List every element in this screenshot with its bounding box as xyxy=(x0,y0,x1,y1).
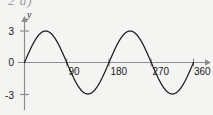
x-tick-label-180: 180 xyxy=(111,66,128,77)
graph-figure: 2 a) y 3 0 -3 90 180 xyxy=(0,0,213,115)
sine-graph-plot: y 3 0 -3 90 180 270 360 xyxy=(0,0,213,115)
y-tick-label-neg3: -3 xyxy=(5,90,14,101)
x-axis xyxy=(18,59,211,65)
y-axis-label: y xyxy=(26,9,32,20)
y-tick-label-3: 3 xyxy=(8,26,14,37)
x-tick-label-360: 360 xyxy=(194,66,211,77)
y-tick-label-0: 0 xyxy=(8,57,14,68)
